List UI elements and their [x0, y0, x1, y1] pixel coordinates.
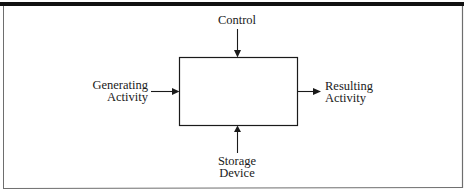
control-arrow-icon — [234, 29, 241, 58]
resulting-arrow-icon — [298, 88, 322, 95]
control-label-line-1: Control — [218, 14, 256, 26]
control-label: Control — [218, 14, 256, 26]
storage-device-line-2: Device — [218, 167, 256, 179]
storage-device-label: Storage Device — [218, 155, 256, 179]
frame-bottom-border — [3, 188, 463, 189]
storage-arrow-icon — [234, 126, 241, 154]
resulting-activity-label: Resulting Activity — [325, 80, 373, 104]
resulting-activity-line-2: Activity — [325, 92, 373, 104]
generating-activity-line-2: Activity — [92, 91, 148, 103]
generating-arrow-icon — [151, 88, 180, 95]
generating-activity-label: Generating Activity — [92, 79, 148, 103]
top-rule — [0, 2, 464, 6]
process-box — [180, 58, 298, 126]
